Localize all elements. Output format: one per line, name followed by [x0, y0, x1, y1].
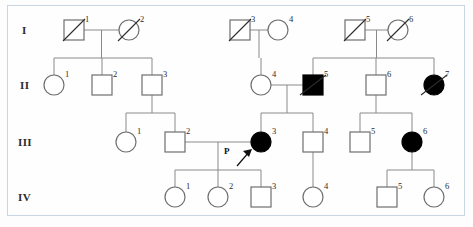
id-label-I-3: 3: [251, 14, 255, 24]
individual-I-1[interactable]: 1: [63, 14, 89, 41]
individual-II-2[interactable]: 2: [92, 69, 117, 95]
symbol-circle-III-1[interactable]: [116, 132, 136, 152]
individual-I-6[interactable]: 6: [387, 14, 413, 41]
symbol-square-IV-3[interactable]: [251, 187, 271, 207]
proband-arrow-head: [243, 149, 252, 157]
individual-I-2[interactable]: 2: [118, 14, 144, 41]
id-label-II-7: 7: [445, 69, 449, 79]
symbol-square-III-4[interactable]: [303, 132, 323, 152]
individual-II-1[interactable]: 1: [44, 69, 69, 95]
individual-III-4[interactable]: 4: [303, 126, 329, 152]
individual-III-1[interactable]: 1: [116, 126, 141, 152]
symbol-circle-II-1[interactable]: [44, 75, 64, 95]
individual-III-3[interactable]: 3: [251, 126, 276, 152]
id-label-I-2: 2: [140, 14, 144, 24]
id-label-IV-6: 6: [445, 181, 449, 191]
symbol-circle-I-4[interactable]: [268, 20, 288, 40]
connector-lines-group: [54, 30, 434, 187]
id-label-IV-4: 4: [324, 181, 329, 191]
individual-II-4[interactable]: 4: [251, 69, 277, 95]
symbol-square-II-2[interactable]: [92, 75, 112, 95]
symbol-circle-IV-6[interactable]: [424, 187, 444, 207]
individual-IV-4[interactable]: 4: [303, 181, 329, 207]
symbol-circle-III-6[interactable]: [402, 132, 422, 152]
id-label-II-2: 2: [113, 69, 117, 79]
individual-I-3[interactable]: 3: [229, 14, 255, 41]
individual-I-5[interactable]: 5: [344, 14, 370, 41]
id-label-II-5: 5: [324, 69, 328, 79]
symbol-square-II-6[interactable]: [366, 75, 386, 95]
id-label-IV-2: 2: [229, 181, 233, 191]
symbol-circle-IV-1[interactable]: [165, 187, 185, 207]
pedigree-diagram: 1234561234567123456123456 P: [0, 0, 473, 227]
symbol-square-IV-5[interactable]: [377, 187, 397, 207]
individual-IV-1[interactable]: 1: [165, 181, 190, 207]
individual-symbols-group: 1234561234567123456123456: [44, 14, 449, 207]
id-label-I-1: 1: [85, 14, 89, 24]
symbol-circle-IV-2[interactable]: [208, 187, 228, 207]
individual-III-5[interactable]: 5: [350, 126, 375, 152]
individual-II-3[interactable]: 3: [142, 69, 167, 95]
individual-IV-2[interactable]: 2: [208, 181, 233, 207]
pedigree-chart-page: I II III IV 1234561234567123456123456 P: [0, 0, 473, 227]
id-label-III-6: 6: [423, 126, 427, 136]
individual-II-6[interactable]: 6: [366, 69, 391, 95]
individual-II-5[interactable]: 5: [300, 69, 328, 95]
individual-IV-3[interactable]: 3: [251, 181, 276, 207]
id-label-II-3: 3: [163, 69, 167, 79]
symbol-circle-II-4[interactable]: [251, 75, 271, 95]
id-label-III-2: 2: [186, 126, 190, 136]
individual-I-4[interactable]: 4: [268, 14, 294, 40]
id-label-III-4: 4: [324, 126, 329, 136]
proband-letter-p: P: [224, 146, 230, 156]
id-label-I-5: 5: [366, 14, 370, 24]
id-label-III-3: 3: [272, 126, 276, 136]
id-label-IV-5: 5: [398, 181, 402, 191]
id-label-IV-1: 1: [186, 181, 190, 191]
individual-IV-5[interactable]: 5: [377, 181, 402, 207]
individual-III-2[interactable]: 2: [165, 126, 190, 152]
id-label-III-5: 5: [371, 126, 375, 136]
id-label-IV-3: 3: [272, 181, 276, 191]
individual-III-6[interactable]: 6: [402, 126, 427, 152]
id-label-II-4: 4: [272, 69, 277, 79]
symbol-circle-III-3[interactable]: [251, 132, 271, 152]
id-label-III-1: 1: [137, 126, 141, 136]
id-label-I-6: 6: [409, 14, 413, 24]
symbol-square-II-3[interactable]: [142, 75, 162, 95]
id-label-II-6: 6: [387, 69, 391, 79]
symbol-circle-IV-4[interactable]: [303, 187, 323, 207]
symbol-square-III-2[interactable]: [165, 132, 185, 152]
id-label-I-4: 4: [289, 14, 294, 24]
symbol-square-III-5[interactable]: [350, 132, 370, 152]
proband-arrow-group: P: [224, 146, 252, 166]
individual-II-7[interactable]: 7: [421, 69, 449, 95]
id-label-II-1: 1: [65, 69, 69, 79]
individual-IV-6[interactable]: 6: [424, 181, 449, 207]
